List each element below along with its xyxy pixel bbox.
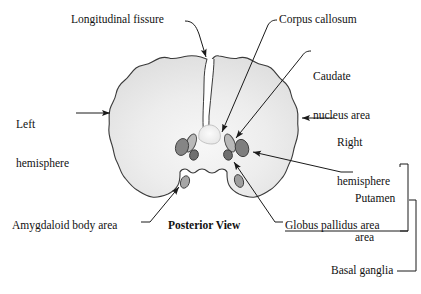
label-putamen-area: Putamen area <box>355 166 395 270</box>
label-caudate-nucleus-line1: Caudate <box>313 70 370 83</box>
label-putamen-line1: Putamen <box>355 192 395 205</box>
label-posterior-view: Posterior View <box>168 219 240 232</box>
label-left-hemisphere-line2: hemisphere <box>16 157 69 170</box>
amygdaloid-body-left-shape <box>179 175 191 190</box>
label-corpus-callosum: Corpus callosum <box>279 13 357 26</box>
label-right-hemisphere-line1: Right <box>337 136 390 149</box>
label-globus-pallidus-area: Globus pallidus area <box>285 219 380 232</box>
corpus-callosum-body <box>199 125 221 144</box>
label-left-hemisphere: Left hemisphere <box>16 92 69 196</box>
figure-container: Longitudinal fissure Corpus callosum Cau… <box>0 0 421 294</box>
inner-bracket <box>400 164 408 231</box>
outer-bracket <box>409 200 416 271</box>
label-basal-ganglia: Basal ganglia <box>331 264 393 277</box>
leader-longitudinal-fissure <box>185 21 206 57</box>
label-amygdaloid-body-area: Amygdaloid body area <box>12 219 117 232</box>
corpus-callosum-shape <box>199 125 221 144</box>
label-longitudinal-fissure: Longitudinal fissure <box>71 13 164 26</box>
label-putamen-line2: area <box>355 231 395 244</box>
label-left-hemisphere-line1: Left <box>16 118 69 131</box>
